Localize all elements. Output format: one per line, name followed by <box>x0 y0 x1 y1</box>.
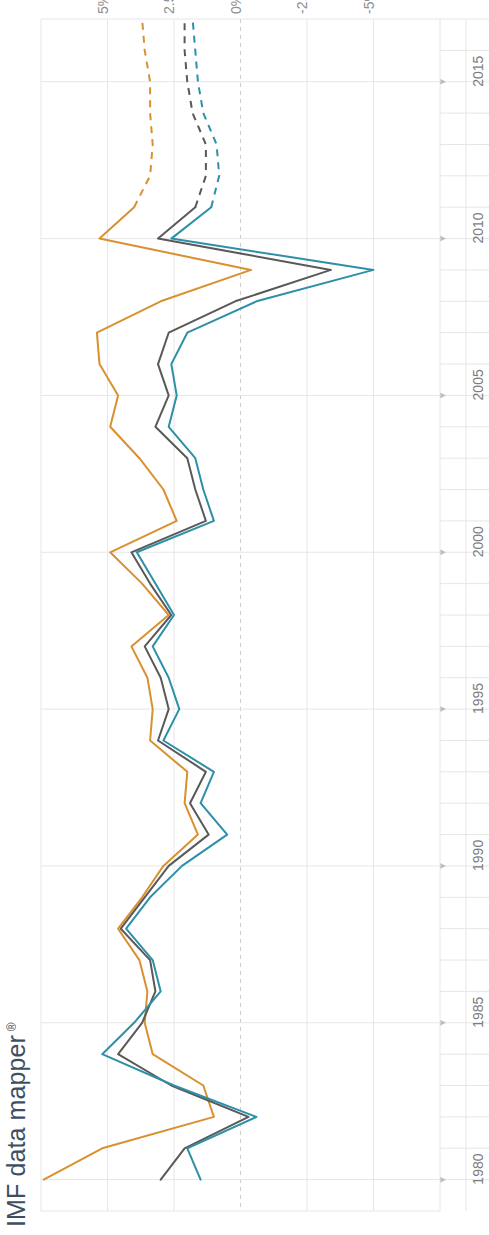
value-axis-labels: 5%2.5%0%-2.5%-5% <box>95 0 377 14</box>
time-tick-marker <box>440 863 446 869</box>
series-layer <box>44 19 374 1180</box>
time-tick-marker <box>440 392 446 398</box>
time-tick-label: 2005 <box>470 369 486 400</box>
time-tick-marker <box>440 549 446 555</box>
time-tick-label: 1985 <box>470 996 486 1027</box>
time-tick-label: 1995 <box>470 683 486 714</box>
time-axis-labels: 20152010200520001995199019851980 <box>470 55 486 1184</box>
time-tick-label: 2010 <box>470 212 486 243</box>
time-tick-marker <box>440 706 446 712</box>
grid-minor-ticks <box>440 19 489 1211</box>
time-tick-marker <box>440 1020 446 1026</box>
series-line-series-orange <box>44 207 251 1179</box>
time-tick-label: 1980 <box>470 1153 486 1184</box>
value-tick-label: 2.5% <box>161 0 177 14</box>
series-forecast-series-teal <box>193 19 220 207</box>
time-tick-marker <box>440 79 446 85</box>
time-tick-label: 2000 <box>470 526 486 557</box>
series-forecast-series-gray <box>185 19 206 207</box>
time-tick-label: 2015 <box>470 55 486 86</box>
series-line-series-teal <box>102 207 373 1179</box>
chart-page: IMF data mapper® 5%2.5%0%-2.5%-5% 201520… <box>0 0 489 1235</box>
line-chart[interactable]: 5%2.5%0%-2.5%-5% 20152010200520001995199… <box>0 0 489 1235</box>
value-tick-label: -2.5% <box>294 0 310 14</box>
value-tick-label: 5% <box>95 0 111 14</box>
time-tick-marker <box>440 1177 446 1183</box>
time-gridlines <box>41 79 446 1183</box>
value-tick-label: -5% <box>361 0 377 14</box>
value-tick-label: 0% <box>228 0 244 14</box>
time-tick-label: 1990 <box>470 840 486 871</box>
time-tick-marker <box>440 236 446 242</box>
series-forecast-series-orange <box>134 19 153 207</box>
